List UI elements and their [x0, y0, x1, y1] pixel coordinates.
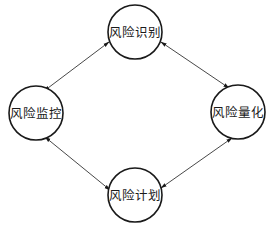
node-label: 风险监控 — [10, 106, 62, 121]
edge-plan-quantify — [161, 138, 232, 188]
node-label: 风险量化 — [212, 105, 264, 120]
edge-identify-monitor — [44, 42, 109, 91]
node-identify: 风险识别 — [108, 5, 162, 59]
node-label: 风险计划 — [109, 188, 161, 203]
node-quantify: 风险量化 — [211, 85, 265, 139]
node-plan: 风险计划 — [108, 168, 162, 222]
edge-monitor-plan — [45, 137, 110, 190]
edge-identify-quantify — [161, 42, 229, 88]
node-label: 风险识别 — [109, 25, 161, 40]
risk-management-cycle-diagram: 风险识别 风险量化 风险计划 风险监控 — [0, 0, 269, 231]
node-monitor: 风险监控 — [9, 86, 63, 140]
diagram-svg: 风险识别 风险量化 风险计划 风险监控 — [0, 0, 269, 231]
